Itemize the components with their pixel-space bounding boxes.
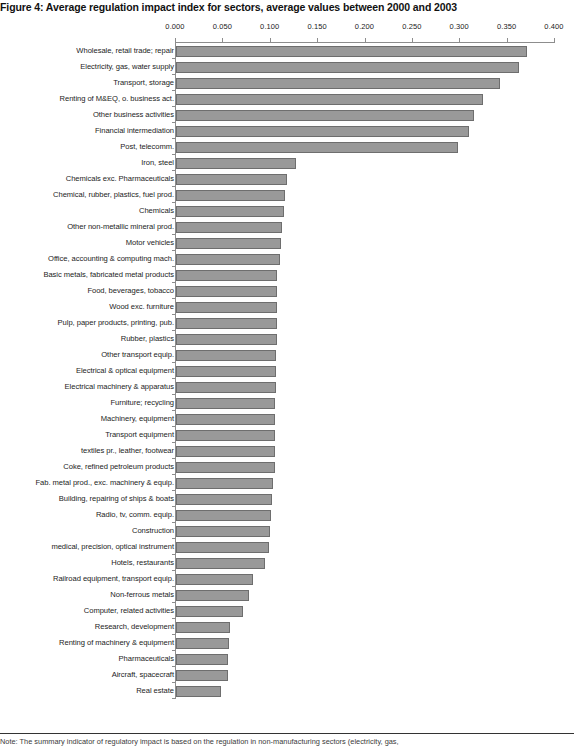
bar-track [176, 62, 555, 73]
bar-track [176, 158, 555, 169]
bar-category-label: Chemicals [0, 203, 174, 219]
bar [176, 254, 280, 265]
bar-row: Building, repairing of ships & boats [0, 491, 574, 507]
bar-category-label: Coke, refined petroleum products [0, 459, 174, 475]
bar-category-label: Transport, storage [0, 75, 174, 91]
bar [176, 238, 281, 249]
bar-row: Fab. metal prod., exc. machinery & equip… [0, 475, 574, 491]
bar-row: Aircraft, spacecraft [0, 667, 574, 683]
bar-track [176, 510, 555, 521]
bar-row: Rubber, plastics [0, 331, 574, 347]
bar-row: Hotels, restaurants [0, 555, 574, 571]
bar [176, 190, 285, 201]
bar-track [176, 78, 555, 89]
bar-row: Food, beverages, tobacco [0, 283, 574, 299]
bar-row: Electricity, gas, water supply [0, 59, 574, 75]
bar-row: Other transport equip. [0, 347, 574, 363]
x-axis-tick-label: 0.000 [165, 22, 184, 31]
figure-title: Figure 4: Average regulation impact inde… [0, 0, 574, 14]
bar-category-label: Construction [0, 523, 174, 539]
bar [176, 110, 474, 121]
bar [176, 542, 269, 553]
bar-track [176, 654, 555, 665]
bar-row: Coke, refined petroleum products [0, 459, 574, 475]
bar-track [176, 94, 555, 105]
bar [176, 494, 272, 505]
bar-track [176, 542, 555, 553]
bar-track [176, 254, 555, 265]
bar-track [176, 126, 555, 137]
bar-row: medical, precision, optical instrument [0, 539, 574, 555]
bar-row: Construction [0, 523, 574, 539]
bar-track [176, 478, 555, 489]
bar-category-label: Rubber, plastics [0, 331, 174, 347]
bar-row: Chemicals [0, 203, 574, 219]
bar-category-label: Building, repairing of ships & boats [0, 491, 174, 507]
bar-track [176, 238, 555, 249]
bar-row: Post, telecomm. [0, 139, 574, 155]
bar-category-label: textiles pr., leather, footwear [0, 443, 174, 459]
bar-category-label: Financial intermediation [0, 123, 174, 139]
x-axis-tick-label: 0.150 [307, 22, 326, 31]
bar-category-label: Real estate [0, 683, 174, 699]
bar-track [176, 142, 555, 153]
bar [176, 398, 275, 409]
bar [176, 686, 221, 697]
x-axis-tick-label: 0.350 [497, 22, 516, 31]
bar-category-label: Furniture; recycling [0, 395, 174, 411]
bar-row: Motor vehicles [0, 235, 574, 251]
bar [176, 142, 458, 153]
bar [176, 574, 253, 585]
bar-row: Financial intermediation [0, 123, 574, 139]
footer-divider [0, 733, 574, 734]
bar [176, 638, 229, 649]
bar-row: Transport, storage [0, 75, 574, 91]
bar-track [176, 350, 555, 361]
bar-row: Computer, related activities [0, 603, 574, 619]
bar-category-label: Railroad equipment, transport equip. [0, 571, 174, 587]
bar-category-label: Pharmaceuticals [0, 651, 174, 667]
bar-track [176, 366, 555, 377]
bar [176, 590, 249, 601]
bar-category-label: Non-ferrous metals [0, 587, 174, 603]
bar [176, 222, 282, 233]
bar [176, 270, 277, 281]
bar-track [176, 206, 555, 217]
bar-row: Pulp, paper products, printing, pub. [0, 315, 574, 331]
bar-category-label: Chemical, rubber, plastics, fuel prod. [0, 187, 174, 203]
bar-track [176, 670, 555, 681]
bar-row: Non-ferrous metals [0, 587, 574, 603]
bar [176, 126, 469, 137]
bar-track [176, 222, 555, 233]
x-axis-tick-label: 0.200 [355, 22, 374, 31]
x-axis-tick-label: 0.400 [544, 22, 563, 31]
bar-track [176, 430, 555, 441]
bar-track [176, 110, 555, 121]
bar-row: Transport equipment [0, 427, 574, 443]
bar-track [176, 526, 555, 537]
bar-track [176, 334, 555, 345]
bar-category-label: Wholesale, retail trade; repair [0, 43, 174, 59]
figure-note: Note: The summary indicator of regulator… [0, 737, 574, 749]
bar-row: Chemicals exc. Pharmaceuticals [0, 171, 574, 187]
bar-row: Renting of M&EQ, o. business act. [0, 91, 574, 107]
bar-track [176, 574, 555, 585]
bar-row: textiles pr., leather, footwear [0, 443, 574, 459]
bar [176, 526, 270, 537]
bar [176, 158, 296, 169]
x-axis-tick-label: 0.050 [213, 22, 232, 31]
bar-row: Machinery, equipment [0, 411, 574, 427]
bar-category-label: Radio, tv, comm. equip. [0, 507, 174, 523]
bar-category-label: Motor vehicles [0, 235, 174, 251]
bar-category-label: Fab. metal prod., exc. machinery & equip… [0, 475, 174, 491]
bar-category-label: Hotels, restaurants [0, 555, 174, 571]
bar-row: Basic metals, fabricated metal products [0, 267, 574, 283]
bar-category-label: Research, development [0, 619, 174, 635]
bar-category-label: Chemicals exc. Pharmaceuticals [0, 171, 174, 187]
bar-category-label: Office, accounting & computing mach. [0, 251, 174, 267]
bar [176, 462, 275, 473]
bar-track [176, 590, 555, 601]
bar-category-label: Food, beverages, tobacco [0, 283, 174, 299]
bar-category-label: Aircraft, spacecraft [0, 667, 174, 683]
bar-track [176, 398, 555, 409]
